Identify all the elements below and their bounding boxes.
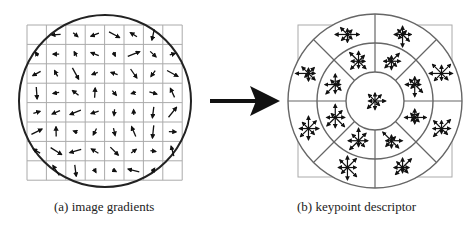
sift-figure <box>0 0 475 225</box>
image-gradients-panel <box>19 15 191 187</box>
keypoint-descriptor-panel <box>288 14 462 188</box>
caption-keypoint-descriptor: (b) keypoint descriptor <box>297 199 416 215</box>
right-arrow-icon <box>210 86 280 116</box>
caption-image-gradients: (a) image gradients <box>54 199 154 215</box>
